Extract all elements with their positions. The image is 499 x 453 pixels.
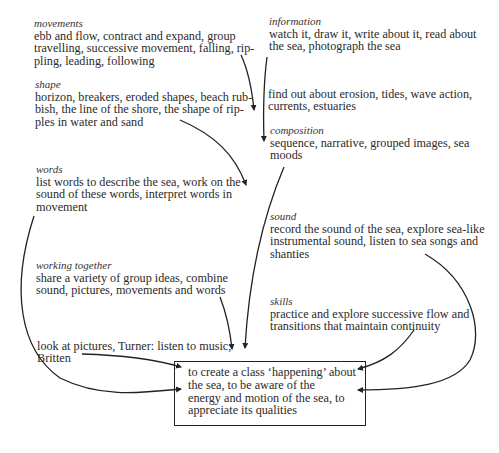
node-text: ples in water and sand — [35, 116, 252, 128]
node-text: movement — [36, 201, 241, 213]
goal-text-line: to create a class ‘happening’ about — [188, 366, 356, 379]
node-working-together: working together share a variety of grou… — [36, 259, 228, 297]
node-text: the sea, photograph the sea — [269, 40, 476, 52]
arrow-skills-to-goal — [358, 330, 414, 369]
node-text: shanties — [270, 248, 485, 260]
node-shape: shape horizon, breakers, eroded shapes, … — [35, 78, 252, 128]
node-skills: skills practice and explore successive f… — [270, 295, 469, 333]
goal-text-line: the sea, to be aware of the — [188, 379, 356, 392]
node-text: instrumental sound, listen to sea songs … — [270, 235, 485, 247]
node-text: pling, leading, following — [34, 55, 254, 67]
node-composition: composition sequence, narrative, grouped… — [270, 124, 469, 162]
goal-text-line: appreciate its qualities — [188, 404, 356, 417]
node-information: information watch it, draw it, write abo… — [269, 15, 476, 53]
node-text: currents, estuaries — [268, 100, 472, 112]
node-movements: movements ebb and flow, contract and exp… — [34, 17, 254, 67]
arrow-information-to-composition — [264, 57, 267, 141]
goal-text: to create a class ‘happening’ about the … — [188, 366, 356, 417]
node-text: travelling, successive movement, falling… — [34, 42, 254, 54]
node-find-out: find out about erosion, tides, wave acti… — [268, 88, 472, 113]
node-text: sound of these words, interpret words in — [36, 188, 241, 200]
arrow-words-to-goal — [21, 216, 181, 393]
node-text: moods — [270, 149, 469, 161]
goal-box: to create a class ‘happening’ about the … — [174, 361, 366, 426]
node-text: transitions that maintain continuity — [270, 320, 469, 332]
node-text: sound, pictures, movements and words — [36, 284, 228, 296]
node-text: bish, the line of the shore, the shape o… — [35, 103, 252, 115]
node-words: words list words to describe the sea, wo… — [36, 163, 241, 213]
node-sound: sound record the sound of the sea, explo… — [270, 210, 485, 260]
